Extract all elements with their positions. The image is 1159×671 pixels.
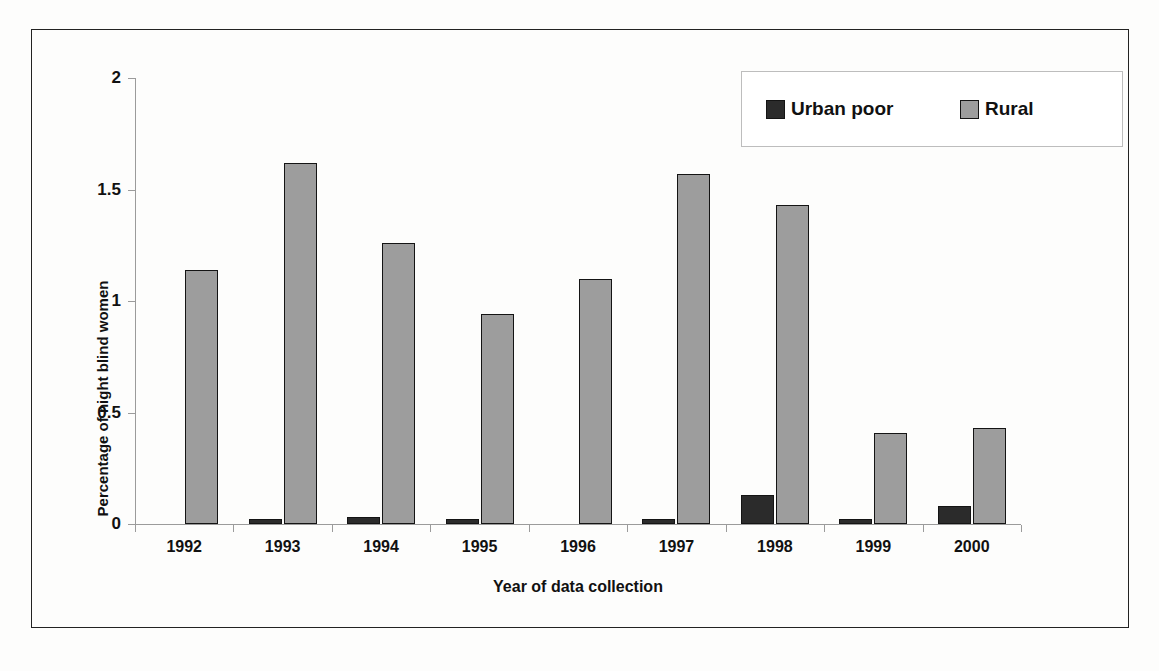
bar-rural-1994 [382,243,415,524]
bar-rural-1999 [874,433,907,524]
legend-label-urban-poor: Urban poor [791,98,893,120]
y-tick-label: 2 [61,68,121,88]
legend-item-urban-poor: Urban poor [766,98,893,120]
x-tick [726,525,727,532]
x-tick-label: 1997 [627,538,725,556]
x-tick [430,525,431,532]
bar-rural-1998 [776,205,809,524]
x-tick [824,525,825,532]
x-tick-label: 1998 [726,538,824,556]
legend-label-rural: Rural [985,98,1034,120]
y-tick [128,524,135,525]
bar-rural-1993 [284,163,317,524]
bar-urban-poor-1993 [249,519,282,524]
x-tick-label: 2000 [923,538,1021,556]
y-tick [128,413,135,414]
x-tick [529,525,530,532]
x-tick-label: 1999 [824,538,922,556]
bar-rural-1995 [481,314,514,524]
bar-urban-poor-1997 [642,519,675,524]
y-axis-title: Percentage of night blind women [94,229,111,569]
x-tick-label: 1992 [135,538,233,556]
y-axis-title-holder: Percentage of night blind women [62,140,92,400]
x-tick-label: 1996 [529,538,627,556]
bar-rural-1997 [677,174,710,524]
bar-urban-poor-1995 [446,519,479,524]
x-tick-label: 1993 [233,538,331,556]
bar-urban-poor-1999 [839,519,872,524]
y-tick-label: 0 [61,514,121,534]
x-tick-label: 1994 [332,538,430,556]
legend-swatch-rural [960,100,979,119]
x-tick-label: 1995 [430,538,528,556]
x-tick [627,525,628,532]
legend-item-rural: Rural [960,98,1034,120]
bar-urban-poor-1998 [741,495,774,524]
chart-legend: Urban poor Rural [741,71,1123,147]
x-axis-title: Year of data collection [135,578,1021,596]
x-tick [923,525,924,532]
bar-rural-2000 [973,428,1006,524]
y-tick [128,301,135,302]
x-tick [233,525,234,532]
bar-rural-1992 [185,270,218,524]
y-tick-label: 0.5 [61,403,121,423]
y-tick [128,78,135,79]
bar-urban-poor-1994 [347,517,380,524]
x-tick [135,525,136,532]
x-axis-line [135,524,1021,525]
legend-swatch-urban-poor [766,100,785,119]
x-tick [332,525,333,532]
bar-rural-1996 [579,279,612,524]
chart-page: 00.511.52 199219931994199519961997199819… [0,0,1159,671]
y-axis-line [135,78,136,525]
x-tick [1021,525,1022,532]
y-tick [128,190,135,191]
bar-urban-poor-2000 [938,506,971,524]
